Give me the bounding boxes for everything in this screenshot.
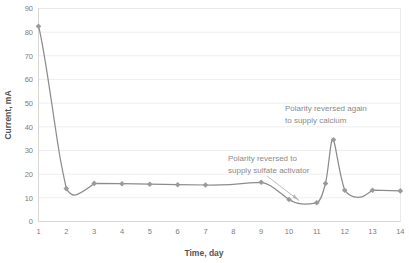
annotation-calcium-line1: Polarity reversed again: [285, 104, 367, 113]
x-tick-label: 4: [120, 227, 124, 236]
y-tick-label: 20: [25, 170, 33, 179]
x-tick-label: 7: [203, 227, 207, 236]
x-tick-label: 2: [64, 227, 68, 236]
y-tick-label: 30: [25, 146, 33, 155]
x-tick-label: 13: [368, 227, 376, 236]
y-tick-label: 80: [25, 28, 33, 37]
x-tick-label: 12: [341, 227, 349, 236]
line-chart: 0 10 20 30 40 50 60 70 80 90 1 2 3 4 5 6…: [0, 0, 409, 263]
chart-container: 0 10 20 30 40 50 60 70 80 90 1 2 3 4 5 6…: [0, 0, 409, 263]
series-markers: [36, 23, 403, 205]
y-axis-tick-labels: 0 10 20 30 40 50 60 70 80 90: [25, 4, 33, 226]
x-tick-label: 8: [231, 227, 235, 236]
annotation-sulfate: Polarity reversed to supply sulfate acti…: [228, 154, 310, 201]
annotation-calcium: Polarity reversed again to supply calciu…: [285, 104, 367, 125]
y-tick-label: 50: [25, 99, 33, 108]
x-tick-label: 10: [285, 227, 293, 236]
y-tick-label: 90: [25, 4, 33, 13]
x-axis-title: Time, day: [184, 248, 223, 258]
annotation-sulfate-line1: Polarity reversed to: [228, 154, 297, 163]
annotation-calcium-line2: to supply calcium: [285, 116, 347, 125]
y-tick-label: 0: [29, 217, 33, 226]
x-tick-label: 3: [92, 227, 96, 236]
y-tick-label: 40: [25, 123, 33, 132]
x-tick-label: 14: [396, 227, 404, 236]
y-tick-label: 10: [25, 194, 33, 203]
y-tick-label: 60: [25, 75, 33, 84]
x-tick-label: 5: [148, 227, 152, 236]
x-tick-label: 9: [259, 227, 263, 236]
x-tick-label: 1: [36, 227, 40, 236]
y-tick-label: 70: [25, 52, 33, 61]
y-axis-title: Current, mA: [3, 90, 13, 139]
x-tick-label: 11: [313, 227, 321, 236]
x-tick-label: 6: [176, 227, 180, 236]
annotation-sulfate-line2: supply sulfate activator: [228, 166, 310, 175]
annotation-sulfate-arrow: [267, 176, 299, 201]
x-axis-tick-labels: 1 2 3 4 5 6 7 8 9 10 11 12 13 14: [36, 227, 404, 236]
